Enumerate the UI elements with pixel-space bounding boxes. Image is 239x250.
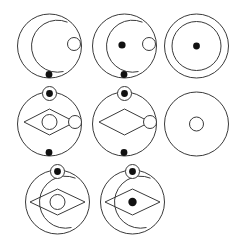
- bottom-filled-dot: [121, 71, 128, 78]
- top-circled-dot-core: [54, 168, 61, 175]
- panel-4-drawing: [14, 88, 89, 166]
- figure-panel-empty: [161, 166, 236, 244]
- top-circled-dot-core: [121, 90, 128, 97]
- panel-6-drawing: [161, 88, 236, 166]
- panel-2-drawing: [89, 10, 164, 88]
- figure-panel-1: [14, 10, 89, 88]
- center-filled-dot: [128, 198, 136, 206]
- center-filled-dot: [118, 41, 125, 48]
- right-open-circle: [69, 116, 82, 129]
- bottom-filled-dot: [46, 149, 53, 156]
- figure-panel-3: [161, 10, 236, 88]
- diamond: [99, 109, 150, 135]
- right-open-circle: [68, 38, 81, 51]
- panel-3-drawing: [161, 10, 236, 88]
- figure-panel-5: [89, 88, 164, 166]
- center-filled-dot: [193, 43, 200, 50]
- inner-arc-open-right: [32, 20, 68, 72]
- bottom-filled-dot: [46, 71, 53, 78]
- panel-5-drawing: [89, 88, 164, 166]
- figure-matrix-grid: [0, 0, 239, 250]
- figure-panel-6: [161, 88, 236, 166]
- center-open-circle: [42, 115, 57, 130]
- center-open-circle: [190, 117, 204, 131]
- figure-panel-7: [22, 166, 97, 244]
- top-circled-dot-core: [129, 168, 136, 175]
- right-open-circle: [144, 116, 157, 129]
- panel-7-drawing: [22, 166, 97, 244]
- right-open-circle: [143, 38, 156, 51]
- figure-panel-4: [14, 88, 89, 166]
- top-circled-dot-core: [46, 90, 53, 97]
- panel-1-drawing: [14, 10, 89, 88]
- figure-panel-2: [89, 10, 164, 88]
- bottom-filled-dot: [121, 149, 128, 156]
- center-open-circle: [50, 195, 65, 210]
